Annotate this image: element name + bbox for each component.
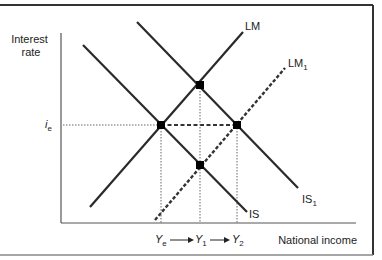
equilibrium-point-is-lm1 <box>196 161 204 169</box>
arrowhead-icon <box>224 237 230 243</box>
ye-label: Ye <box>155 233 167 248</box>
y2-label: Y2 <box>232 233 244 248</box>
is-lm-diagram: Interest rate National income LM LM1 IS1… <box>0 0 382 260</box>
arrowhead-icon <box>188 237 194 243</box>
equilibrium-point-is1-lm <box>196 81 204 89</box>
equilibrium-point-initial <box>157 121 165 129</box>
y-axis-label: Interest rate <box>11 33 51 58</box>
is1-curve <box>137 22 298 188</box>
y1-label: Y1 <box>195 233 207 248</box>
ie-label: ie <box>45 118 52 133</box>
lm-curve <box>90 32 243 207</box>
lm1-label: LM1 <box>288 57 308 72</box>
equilibrium-point-is1-lm1 <box>233 121 241 129</box>
lm1-curve <box>155 68 285 220</box>
is-label: IS <box>249 208 259 220</box>
is1-label: IS1 <box>302 193 317 208</box>
x-axis-label: National income <box>278 234 357 246</box>
lm-label: LM <box>245 20 260 32</box>
